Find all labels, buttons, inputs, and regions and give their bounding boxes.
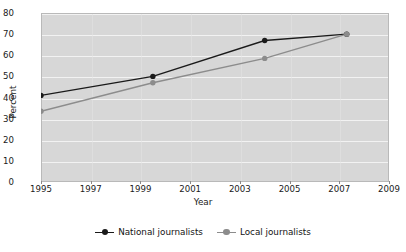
y-axis-title: Percent (8, 62, 18, 142)
legend-label: Local journalists (240, 227, 311, 237)
y-axis-tick-label: 70 (0, 29, 14, 39)
x-axis-title: Year (0, 197, 406, 207)
legend-item-local-journalists[interactable]: Local journalists (217, 227, 311, 237)
legend-item-national-journalists[interactable]: National journalists (95, 227, 203, 237)
series-line (41, 34, 347, 111)
y-axis-tick-label: 10 (0, 156, 14, 166)
data-point-marker[interactable] (41, 93, 44, 98)
data-point-marker[interactable] (150, 74, 155, 79)
series-layer (41, 13, 389, 182)
data-point-marker[interactable] (262, 56, 267, 61)
line-chart-figure: 01020304050607080 1995199719992001200320… (0, 0, 406, 252)
data-point-marker[interactable] (262, 38, 267, 43)
data-point-marker[interactable] (150, 80, 155, 85)
x-axis-tick-label: 2001 (167, 184, 213, 194)
data-point-marker[interactable] (344, 31, 349, 36)
y-axis-tick-label: 0 (0, 177, 14, 187)
x-axis-tick-label: 1995 (18, 184, 64, 194)
y-axis-tick-label: 80 (0, 8, 14, 18)
x-axis-tick-label: 2003 (217, 184, 263, 194)
y-axis-tick-label: 60 (0, 50, 14, 60)
x-axis-tick-label: 2009 (366, 184, 406, 194)
line-dot-marker-black-icon (95, 228, 114, 237)
data-point-marker[interactable] (41, 109, 44, 114)
x-axis-tick-label: 2007 (316, 184, 362, 194)
line-dot-marker-gray-icon (217, 228, 236, 237)
x-axis-tick-label: 2005 (267, 184, 313, 194)
legend-label: National journalists (118, 227, 203, 237)
x-axis-tick-label: 1999 (117, 184, 163, 194)
series-line (41, 34, 347, 95)
x-axis-tick-label: 1997 (68, 184, 114, 194)
chart-legend: National journalists Local journalists (0, 227, 406, 237)
